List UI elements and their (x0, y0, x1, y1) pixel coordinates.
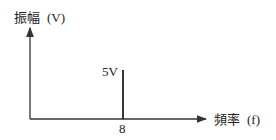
spike-value-label: 5V (102, 64, 119, 79)
spectrum-chart: 振幅 (V) 5V 8 頻率 (f) (0, 0, 276, 140)
x-tick-label: 8 (119, 121, 126, 136)
x-axis-label: 頻率 (f) (214, 110, 260, 127)
y-axis-label: 振幅 (V) (14, 8, 65, 25)
